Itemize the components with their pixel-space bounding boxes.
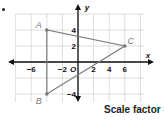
vertex-a [45, 28, 49, 32]
tick-labels: −6−224642−4Oxy [27, 3, 151, 99]
vertex-label-b: B [36, 96, 42, 106]
x-tick-label: 4 [107, 65, 112, 74]
y-tick-label: −4 [67, 90, 77, 99]
y-tick-label: 4 [72, 26, 77, 35]
vertex-c [123, 44, 127, 48]
origin-label: O [70, 65, 77, 74]
x-tick-label: −6 [27, 65, 37, 74]
triangle-abc: ABC [35, 20, 135, 106]
scale-factor-text: Scale factor = [104, 104, 164, 115]
x-tick-label: 6 [123, 65, 128, 74]
x-axis-left-arrow-icon [8, 59, 14, 65]
y-axis-up-arrow-icon [75, 4, 81, 10]
vertex-label-a: A [35, 20, 42, 30]
scale-factor-label: Scale factor = 1 2 [104, 103, 164, 116]
axes [8, 4, 154, 102]
y-axis-label: y [84, 3, 90, 12]
vertex-b [45, 92, 49, 96]
vertex-label-c: C [128, 36, 135, 46]
x-axis-label: x [145, 51, 151, 60]
y-tick-label: 2 [72, 42, 77, 51]
x-tick-label: −2 [58, 65, 68, 74]
